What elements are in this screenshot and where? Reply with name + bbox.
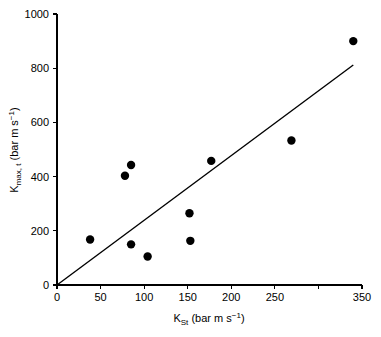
data-point-marker xyxy=(186,237,194,245)
regression-line xyxy=(57,65,353,285)
x-tick-label: 150 xyxy=(179,291,197,303)
x-tick-label: 250 xyxy=(266,291,284,303)
y-tick-label: 600 xyxy=(31,116,49,128)
data-point-marker xyxy=(127,161,135,169)
x-tick-label: 0 xyxy=(54,291,60,303)
data-point-marker xyxy=(185,209,193,217)
x-tick-label: 100 xyxy=(135,291,153,303)
x-tick-label: 350 xyxy=(353,291,371,303)
x-axis-title: KSt (bar m s−1) xyxy=(173,311,244,327)
y-tick-label: 1000 xyxy=(25,8,49,20)
x-tick-label: 200 xyxy=(222,291,240,303)
y-tick-label: 800 xyxy=(31,62,49,74)
y-tick-label: 0 xyxy=(43,279,49,291)
y-tick-label: 200 xyxy=(31,225,49,237)
data-point-marker xyxy=(121,172,129,180)
data-points-group xyxy=(86,37,358,261)
scatter-plot-figure: 02004006008001000 050100150200250350 KSt… xyxy=(0,0,381,337)
y-axis-title: Kmax, t (bar m s−1) xyxy=(7,107,23,192)
data-point-marker xyxy=(207,157,215,165)
data-point-marker xyxy=(143,252,151,260)
chart-canvas: 02004006008001000 050100150200250350 KSt… xyxy=(0,0,381,337)
data-point-marker xyxy=(349,37,357,45)
trend-line-group xyxy=(57,65,353,285)
data-point-marker xyxy=(86,235,94,243)
data-point-marker xyxy=(127,240,135,248)
y-tick-label: 400 xyxy=(31,171,49,183)
data-point-marker xyxy=(287,136,295,144)
x-tick-label: 50 xyxy=(94,291,106,303)
x-axis-ticks: 050100150200250350 xyxy=(54,285,371,303)
y-axis-ticks: 02004006008001000 xyxy=(25,8,57,291)
